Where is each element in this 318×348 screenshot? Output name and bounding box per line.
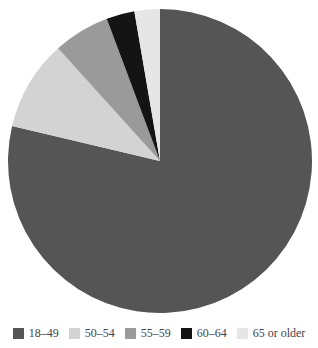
legend-label: 60–64 [197,326,227,341]
legend-label: 55–59 [141,326,171,341]
legend-swatch [69,328,80,339]
legend-swatch [125,328,136,339]
legend-swatch [181,328,192,339]
legend-label: 18–49 [29,326,59,341]
legend-item-55-59: 55–59 [125,326,171,341]
legend-swatch [237,328,248,339]
legend-item-50-54: 50–54 [69,326,115,341]
legend-item-18-49: 18–49 [13,326,59,341]
pie-slices [8,9,312,313]
legend: 18–49 50–54 55–59 60–64 65 or older [0,324,318,342]
legend-item-60-64: 60–64 [181,326,227,341]
legend-item-65-or-older: 65 or older [237,326,306,341]
pie-chart [0,0,318,320]
legend-label: 50–54 [85,326,115,341]
legend-swatch [13,328,24,339]
legend-label: 65 or older [253,326,306,341]
